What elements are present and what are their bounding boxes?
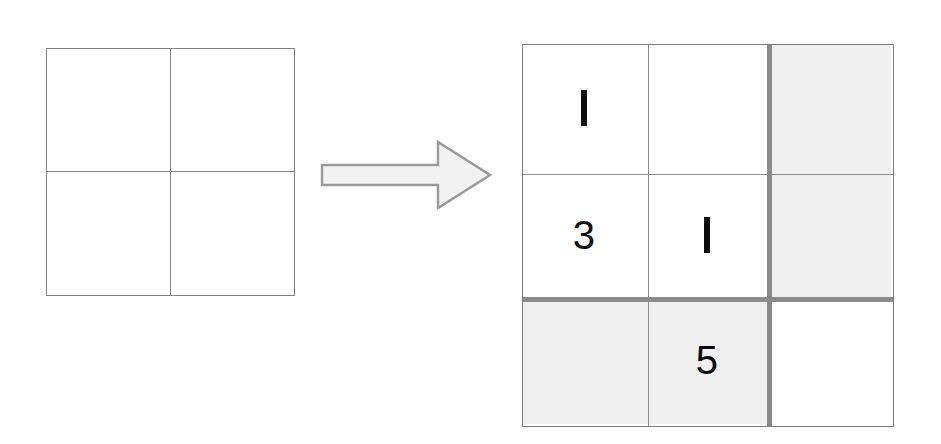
right-arrow-icon (322, 142, 490, 208)
source-grid (46, 48, 295, 296)
result-cell-r1c2 (649, 45, 769, 175)
result-value-r2c1: 3 (573, 215, 596, 255)
diagram-canvas: 1 3 1 5 (0, 0, 941, 444)
result-value-r1c1: 1 (581, 90, 587, 126)
partition-divider-vertical (767, 45, 772, 426)
result-cell-r3c3 (769, 299, 891, 424)
result-cell-r2c2: 1 (649, 175, 769, 299)
result-value-r3c2: 5 (696, 340, 719, 380)
result-cell-r2c3 (769, 175, 891, 299)
source-cell-r2c2 (171, 172, 295, 295)
transform-arrow (320, 138, 492, 212)
result-cell-r1c3 (769, 45, 891, 175)
result-cell-r1c1: 1 (523, 45, 649, 175)
result-cell-r3c1 (523, 299, 649, 424)
result-value-r2c2: 1 (704, 217, 710, 253)
result-grid: 1 3 1 5 (522, 44, 894, 427)
source-cell-r1c2 (171, 49, 295, 172)
grid-divider-horizontal-1 (523, 174, 893, 175)
result-cell-r2c1: 3 (523, 175, 649, 299)
partition-divider-horizontal (523, 297, 893, 302)
result-cell-r3c2: 5 (649, 299, 769, 424)
source-cell-r2c1 (47, 172, 171, 295)
source-cell-r1c1 (47, 49, 171, 172)
grid-divider-vertical-1 (648, 45, 649, 426)
